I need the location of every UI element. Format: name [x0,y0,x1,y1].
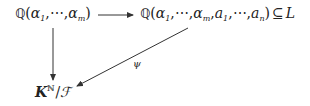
arrow-diagonal-psi [77,28,188,86]
diagram-arrows [0,0,310,106]
psi-label: ψ [133,58,141,69]
